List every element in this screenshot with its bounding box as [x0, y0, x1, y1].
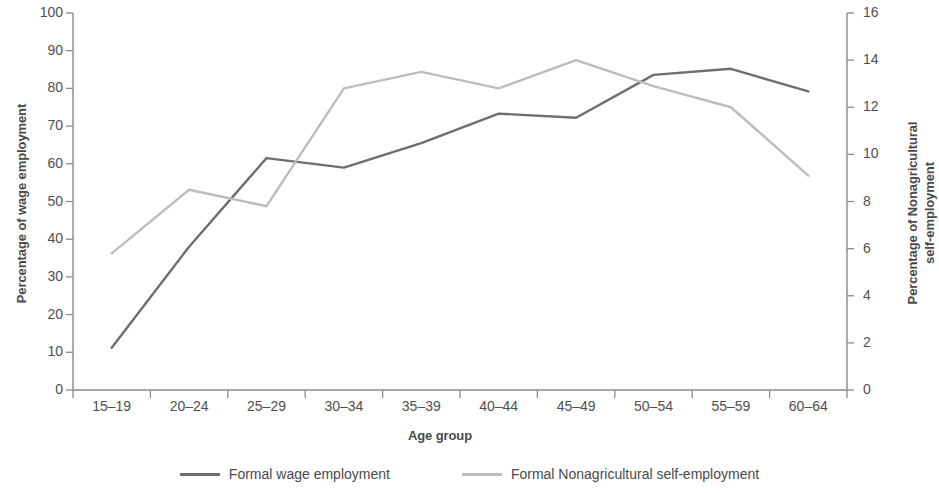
x-axis-tick-label: 15–19 — [92, 398, 131, 414]
y-axis-left-tick: 0 — [23, 381, 63, 397]
y-axis-right-tick: 2 — [863, 334, 903, 350]
y-axis-right-tick: 4 — [863, 287, 903, 303]
y-axis-right-title: Percentage of Nonagricultural self-emplo… — [904, 88, 938, 338]
y-axis-left-tick: 60 — [23, 155, 63, 171]
chart-legend: Formal wage employmentFormal Nonagricult… — [0, 466, 939, 482]
x-axis-tick-label: 25–29 — [247, 398, 286, 414]
y-axis-right-tick: 8 — [863, 193, 903, 209]
legend-item[interactable]: Formal wage employment — [180, 466, 390, 482]
x-axis-tick-label: 20–24 — [170, 398, 209, 414]
y-axis-right-title-line1: Percentage of Nonagricultural — [905, 122, 920, 305]
legend-label: Formal Nonagricultural self-employment — [511, 466, 759, 482]
x-axis-tick-label: 30–34 — [324, 398, 363, 414]
y-axis-left-tick: 40 — [23, 230, 63, 246]
x-axis-tick-label: 50–54 — [634, 398, 673, 414]
y-axis-left-tick: 100 — [23, 4, 63, 20]
y-axis-right-tick: 0 — [863, 381, 903, 397]
y-axis-right-tick: 10 — [863, 145, 903, 161]
y-axis-right-tick: 12 — [863, 98, 903, 114]
x-axis-tick-label: 60–64 — [789, 398, 828, 414]
y-axis-right-title-line2: self-employment — [922, 162, 937, 264]
y-axis-left-tick: 10 — [23, 343, 63, 359]
legend-line-swatch — [462, 473, 502, 476]
y-axis-left-tick: 80 — [23, 79, 63, 95]
y-axis-left-tick: 20 — [23, 306, 63, 322]
legend-label: Formal wage employment — [229, 466, 390, 482]
y-axis-right-tick: 14 — [863, 51, 903, 67]
x-axis-tick-label: 45–49 — [557, 398, 596, 414]
y-axis-left-tick: 70 — [23, 117, 63, 133]
y-axis-right-tick: 6 — [863, 240, 903, 256]
legend-line-swatch — [180, 473, 220, 476]
plot-area — [0, 0, 939, 493]
y-axis-left-tick: 90 — [23, 42, 63, 58]
series-line — [112, 60, 809, 253]
x-axis-tick-label: 55–59 — [711, 398, 750, 414]
x-axis-tick-label: 35–39 — [402, 398, 441, 414]
series-lines — [112, 60, 809, 348]
series-line — [112, 69, 809, 348]
x-axis-tick-label: 40–44 — [479, 398, 518, 414]
y-axis-left-tick: 50 — [23, 193, 63, 209]
line-chart: Percentage of wage employment Percentage… — [0, 0, 939, 493]
y-axis-left-tick: 30 — [23, 268, 63, 284]
x-axis-title: Age group — [0, 428, 880, 443]
legend-item[interactable]: Formal Nonagricultural self-employment — [462, 466, 759, 482]
y-axis-right-tick: 16 — [863, 4, 903, 20]
